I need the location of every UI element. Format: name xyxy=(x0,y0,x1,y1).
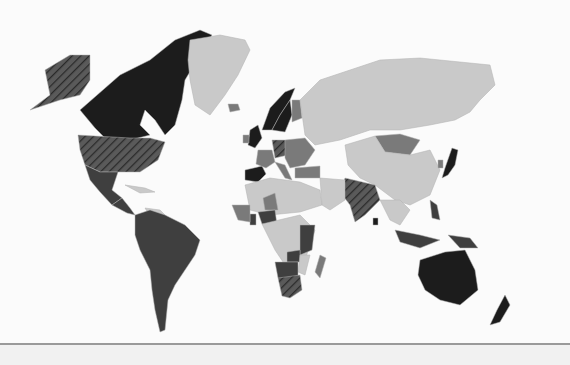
region-iceland xyxy=(228,104,240,112)
region-central-europe xyxy=(285,138,315,168)
region-united-kingdom xyxy=(248,125,262,148)
region-japan xyxy=(442,148,458,178)
region-turkey xyxy=(295,166,320,178)
world-choropleth-map xyxy=(0,0,570,345)
region-zambia xyxy=(287,250,300,262)
region-south-africa xyxy=(278,275,302,298)
region-australia xyxy=(418,250,478,305)
region-caribbean xyxy=(125,185,155,193)
region-kenya-tanzania xyxy=(300,225,315,255)
page-footer-area xyxy=(0,345,570,365)
region-ireland xyxy=(243,135,249,143)
region-sri-lanka xyxy=(373,218,378,225)
region-madagascar xyxy=(315,255,326,278)
region-greenland xyxy=(188,35,250,115)
region-philippines xyxy=(430,200,440,220)
region-west-africa xyxy=(232,205,250,222)
region-india xyxy=(340,178,380,222)
region-alaska xyxy=(30,55,90,110)
region-south-korea xyxy=(438,160,443,168)
region-spain xyxy=(245,166,266,182)
region-middle-east xyxy=(320,178,345,210)
region-ghana xyxy=(250,214,256,225)
region-united-states xyxy=(78,135,165,172)
region-new-zealand xyxy=(490,295,510,325)
region-south-america xyxy=(135,210,200,332)
region-russia xyxy=(300,58,495,145)
region-papua-new-guinea xyxy=(448,235,478,248)
region-france xyxy=(256,150,275,168)
region-north-africa xyxy=(245,178,322,215)
region-mozambique xyxy=(298,255,310,275)
region-indonesia xyxy=(395,230,440,248)
